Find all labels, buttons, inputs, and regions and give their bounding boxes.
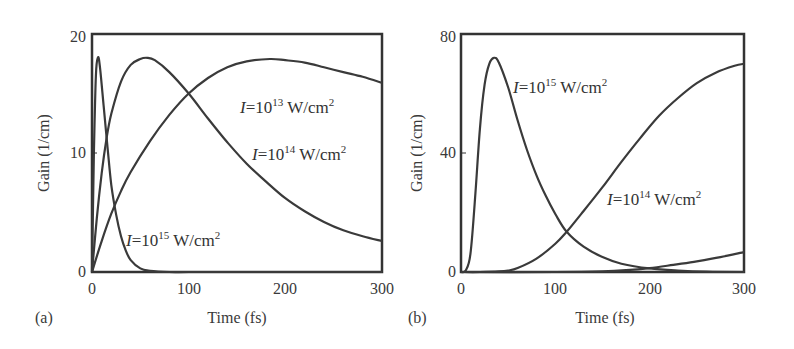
xtick-b-200: 200: [638, 280, 662, 297]
xtick-a-0: 0: [88, 280, 96, 297]
curve-label-a-1e13: I=1013 W/cm2: [239, 96, 334, 117]
ytick-a-10: 10: [70, 144, 86, 161]
panel-b: 0 40 80 0 100 200 300 Time (fs) Gain (1/…: [408, 28, 756, 327]
curve-label-a-1e14: I=1014 W/cm2: [251, 143, 346, 164]
xtick-b-300: 300: [732, 280, 756, 297]
x-axis-title-b: Time (fs): [575, 309, 634, 327]
ytick-a-20: 20: [70, 28, 86, 45]
xtick-a-100: 100: [177, 280, 201, 297]
curve-i-10-15-w-cm-2: [461, 58, 744, 273]
ytick-b-0: 0: [448, 263, 456, 280]
y-axis-title-a: Gain (1/cm): [35, 114, 53, 192]
y-axis-title-b: Gain (1/cm): [408, 114, 426, 192]
ytick-b-40: 40: [440, 144, 456, 161]
curve-i-10-13-w-cm-2: [461, 252, 744, 272]
panel-a: 0 10 20 0 100 200 300 Time (fs) Gain (1/…: [35, 28, 394, 327]
ytick-a-0: 0: [78, 263, 86, 280]
curve-label-a-1e15: I=1015 W/cm2: [125, 229, 220, 250]
curve-label-b-1e15: I=1015 W/cm2: [512, 76, 607, 97]
panel-tag-b: (b): [408, 309, 427, 327]
ytick-b-80: 80: [440, 28, 456, 45]
plot-frame-b: [461, 34, 744, 272]
xtick-a-300: 300: [370, 280, 394, 297]
xtick-b-100: 100: [543, 280, 567, 297]
xtick-b-0: 0: [457, 280, 465, 297]
x-axis-title-a: Time (fs): [207, 309, 266, 327]
figure: 0 10 20 0 100 200 300 Time (fs) Gain (1/…: [0, 0, 794, 349]
curves-b: [461, 58, 744, 273]
curve-label-b-1e14: I=1014 W/cm2: [606, 188, 701, 209]
curve-i-10-14-w-cm-2: [461, 64, 744, 272]
panel-tag-a: (a): [35, 309, 53, 327]
xtick-a-200: 200: [273, 280, 297, 297]
